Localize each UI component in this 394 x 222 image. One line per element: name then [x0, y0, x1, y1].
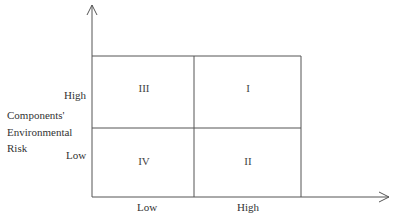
y-axis-title-line-3: Risk [7, 142, 27, 155]
quadrant-iii-label: III [124, 82, 164, 95]
x-tick-low: Low [137, 201, 157, 214]
quadrant-i-label: I [228, 82, 268, 95]
y-axis-arrow [87, 5, 97, 197]
y-tick-high: High [64, 89, 86, 102]
matrix-grid [92, 56, 301, 197]
quadrant-iv-label: IV [124, 155, 164, 168]
x-tick-high: High [237, 201, 259, 214]
y-axis-title-line-1: Components' [7, 109, 65, 122]
quadrant-ii-label: II [228, 155, 268, 168]
y-tick-low: Low [66, 149, 86, 162]
y-axis-title-line-2: Environmental [7, 126, 72, 139]
matrix-diagram: Components' Environmental Risk High Low … [0, 0, 394, 222]
